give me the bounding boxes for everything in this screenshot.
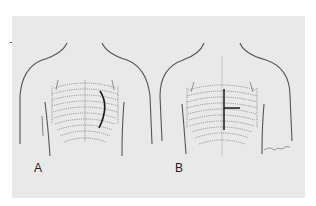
panel-label-a: A <box>34 161 42 175</box>
signature-scribble <box>264 146 290 150</box>
illustration-panel: A <box>12 16 305 198</box>
panel-label-b: B <box>175 161 183 175</box>
figure-a: A <box>12 16 158 198</box>
figure-b: B <box>158 16 304 198</box>
curved-incision <box>99 91 105 128</box>
